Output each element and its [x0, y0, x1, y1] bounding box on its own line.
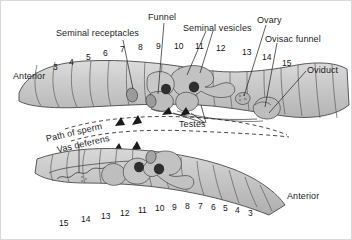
testis-bottom-left [134, 162, 144, 172]
label-ovisac-funnel: Ovisac funnel [265, 34, 321, 44]
bottom-segment-number-4: 4 [235, 206, 240, 215]
testis-right [189, 82, 199, 93]
label-anterior-bottom: Anterior [287, 191, 319, 201]
bottom-segment-number-14: 14 [81, 215, 90, 224]
bottom-segment-number-9: 9 [172, 203, 177, 212]
top-segment-number-5: 5 [86, 53, 91, 62]
top-segment-number-10: 10 [174, 42, 183, 51]
label-oviduct: Oviduct [307, 65, 338, 75]
bottom-segment-number-12: 12 [120, 209, 129, 218]
top-segment-number-6: 6 [103, 49, 108, 58]
label-testes: Testes [179, 119, 206, 129]
bottom-segment-number-6: 6 [211, 203, 216, 212]
top-segment-number-9: 9 [156, 42, 161, 51]
bottom-segment-number-13: 13 [101, 212, 110, 221]
testis-left [161, 84, 171, 94]
top-segment-number-8: 8 [138, 43, 143, 52]
sperm-path-arrows [113, 115, 142, 152]
top-segment-number-13: 13 [242, 48, 251, 57]
bottom-segment-number-5: 5 [223, 204, 228, 213]
top-segment-number-3: 3 [53, 63, 58, 72]
label-anterior-top: Anterior [13, 71, 45, 81]
label-seminal-vesicles: Seminal vesicles [183, 23, 252, 33]
bottom-segment-number-7: 7 [198, 202, 203, 211]
ovisac-funnel-shape [253, 97, 280, 119]
top-segment-number-12: 12 [216, 44, 225, 53]
earthworm-reproductive-diagram: Seminal receptacles Funnel Seminal vesic… [0, 0, 352, 240]
top-segment-number-15: 15 [282, 59, 291, 68]
top-segment-number-14: 14 [262, 53, 271, 62]
ovary-shape [235, 93, 250, 105]
bottom-segment-number-11: 11 [138, 206, 147, 215]
label-ovary: Ovary [257, 15, 282, 25]
bottom-segment-number-10: 10 [155, 204, 164, 213]
bottom-segment-number-3: 3 [248, 209, 253, 218]
label-funnel: Funnel [148, 12, 176, 22]
top-segment-number-11: 11 [195, 42, 204, 51]
label-seminal-receptacles: Seminal receptacles [56, 28, 139, 38]
top-segment-number-4: 4 [69, 58, 74, 67]
bottom-segment-number-15: 15 [59, 219, 68, 228]
testis-bottom-right [154, 164, 164, 175]
bottom-segment-number-8: 8 [185, 202, 190, 211]
top-segment-number-7: 7 [120, 45, 125, 54]
